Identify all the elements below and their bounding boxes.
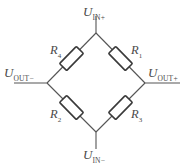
resistor-label-r1: R1: [131, 41, 142, 60]
r2-subscript: 2: [58, 116, 62, 124]
resistor-label-r3: R3: [131, 105, 142, 124]
node-label-u-in-minus: UIN−: [83, 146, 105, 165]
u-out-plus-subscript: OUT+: [157, 74, 177, 83]
circuit-diagram-canvas: UIN+ UIN− UOUT− UOUT+ R4 R1 R2 R3: [0, 0, 193, 165]
r1-symbol: R: [131, 43, 139, 57]
u-in-plus-subscript: IN+: [92, 13, 105, 22]
resistor-label-r4: R4: [50, 41, 61, 60]
u-in-plus-symbol: U: [83, 4, 92, 19]
node-label-u-out-minus: UOUT−: [4, 64, 34, 83]
u-in-minus-subscript: IN−: [92, 156, 105, 165]
u-in-minus-symbol: U: [83, 147, 92, 162]
r1-subscript: 1: [139, 52, 143, 60]
r4-subscript: 4: [58, 52, 62, 60]
resistor-r4-body: [60, 46, 84, 70]
u-out-minus-subscript: OUT−: [13, 74, 33, 83]
resistor-label-r2: R2: [50, 105, 61, 124]
r2-symbol: R: [50, 107, 58, 121]
r3-subscript: 3: [139, 116, 143, 124]
u-out-plus-symbol: U: [148, 65, 157, 80]
resistor-r2-body: [60, 95, 84, 119]
resistor-r1-body: [109, 46, 133, 70]
resistor-r3-body: [109, 95, 133, 119]
node-label-u-out-plus: UOUT+: [148, 64, 178, 83]
r4-symbol: R: [50, 43, 58, 57]
u-out-minus-symbol: U: [4, 65, 13, 80]
node-label-u-in-plus: UIN+: [83, 3, 105, 22]
r3-symbol: R: [131, 107, 139, 121]
